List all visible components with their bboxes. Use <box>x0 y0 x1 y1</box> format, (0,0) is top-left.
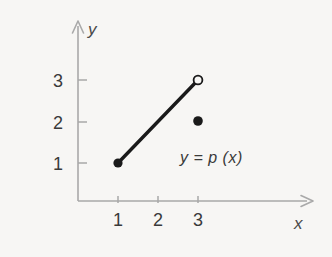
y-axis-group: y <box>73 20 99 246</box>
x-tick-label-3: 3 <box>193 210 203 230</box>
x-tick-label-1: 1 <box>113 210 123 230</box>
equation-label: y = p (x) <box>179 149 243 166</box>
y-axis-label: y <box>87 20 98 39</box>
y-tick-label-2: 2 <box>53 113 63 133</box>
open-endpoint-circle-3-3 <box>194 76 203 85</box>
y-tick-label-1: 1 <box>53 154 63 174</box>
y-tick-label-3: 3 <box>53 71 63 91</box>
closed-endpoint-dot-1-1 <box>113 158 122 167</box>
coordinate-plane: y x 3 2 1 1 2 3 <box>0 0 332 257</box>
x-axis-label: x <box>293 214 303 233</box>
y-axis-ticks: 3 2 1 <box>53 71 87 174</box>
graph-figure: y x 3 2 1 1 2 3 <box>0 0 332 257</box>
x-tick-label-2: 2 <box>153 210 163 230</box>
isolated-point-dot-3-2 <box>193 116 203 126</box>
x-axis-group: x <box>58 196 313 234</box>
